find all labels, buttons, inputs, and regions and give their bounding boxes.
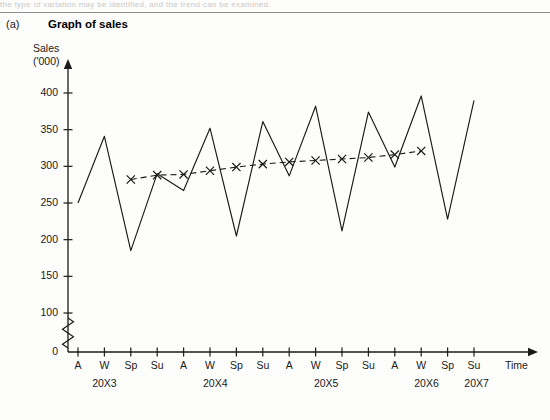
x-tick-label: Sp: [330, 359, 354, 371]
y-tick-label: 100: [24, 306, 58, 318]
y-tick-label: 150: [24, 269, 58, 281]
x-axis-year-label: 20X3: [81, 377, 127, 389]
x-tick-label: Su: [462, 359, 486, 371]
x-axis-year-label: 20X7: [454, 377, 500, 389]
y-tick-label: 0: [24, 345, 58, 357]
x-tick-label: Sp: [436, 359, 460, 371]
x-tick-label: W: [304, 359, 328, 371]
x-tick-label: Su: [356, 359, 380, 371]
x-tick-label: Su: [251, 359, 275, 371]
sales-data-line: [78, 96, 474, 251]
y-axis-arrowhead: [64, 59, 72, 69]
x-tick-label: Sp: [119, 359, 143, 371]
y-tick-label: 300: [24, 159, 58, 171]
x-tick-label: Su: [145, 359, 169, 371]
x-tick-label: A: [66, 359, 90, 371]
x-tick-label: A: [172, 359, 196, 371]
x-axis-year-label: 20X5: [303, 377, 349, 389]
chart-plot-area: 0100150200250300350400AWSpSuAWSpSuAWSpSu…: [0, 0, 550, 420]
x-tick-label: Sp: [224, 359, 248, 371]
x-axis-year-label: 20X4: [192, 377, 238, 389]
x-tick-label: W: [409, 359, 433, 371]
x-axis-year-label: 20X6: [403, 377, 449, 389]
chart-svg: [0, 0, 550, 420]
y-tick-label: 350: [24, 123, 58, 135]
trend-line: [131, 151, 421, 180]
x-tick-label: W: [198, 359, 222, 371]
y-tick-label: 400: [24, 86, 58, 98]
y-tick-label: 250: [24, 196, 58, 208]
x-axis-arrowhead: [528, 348, 538, 356]
y-tick-label: 200: [24, 233, 58, 245]
x-tick-label: W: [92, 359, 116, 371]
x-tick-label: A: [383, 359, 407, 371]
x-tick-label: A: [277, 359, 301, 371]
